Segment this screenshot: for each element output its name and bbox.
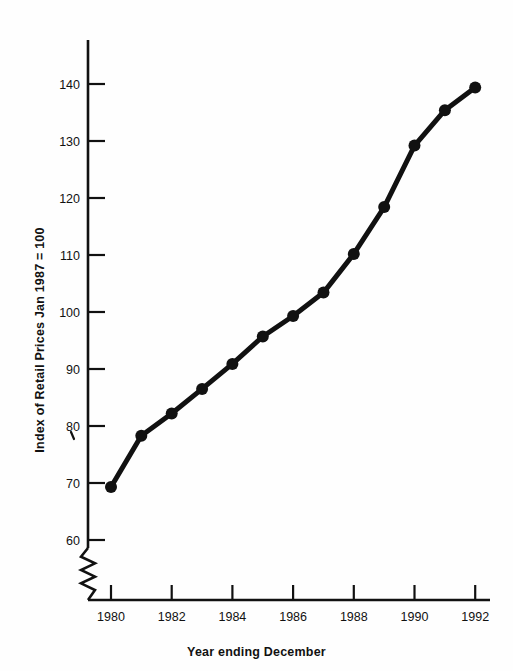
line-chart-plot: 6070809010011012013014019801982198419861… bbox=[0, 0, 513, 671]
x-tick-label: 1990 bbox=[401, 610, 429, 624]
data-point-marker bbox=[348, 248, 360, 260]
y-tick-label: 140 bbox=[59, 78, 80, 92]
y-tick-label: 130 bbox=[59, 135, 80, 149]
data-point-marker bbox=[409, 140, 421, 152]
data-point-marker bbox=[378, 201, 390, 213]
data-point-marker bbox=[287, 310, 299, 322]
x-tick-label: 1980 bbox=[97, 610, 125, 624]
data-point-markers bbox=[105, 81, 481, 493]
x-tick-label: 1988 bbox=[340, 610, 368, 624]
y-axis-title: Index of Retail Prices Jan 1987 = 100 bbox=[33, 180, 47, 500]
x-tick-label: 1982 bbox=[158, 610, 186, 624]
y-tick-label: 100 bbox=[59, 306, 80, 320]
data-series-line bbox=[111, 87, 475, 487]
data-point-marker bbox=[439, 104, 451, 116]
data-point-marker bbox=[257, 331, 269, 343]
data-point-marker bbox=[166, 408, 178, 420]
data-point-marker bbox=[135, 430, 147, 442]
data-point-marker bbox=[318, 287, 330, 299]
x-tick-label: 1986 bbox=[279, 610, 307, 624]
data-point-marker bbox=[226, 358, 238, 370]
chart-figure: 6070809010011012013014019801982198419861… bbox=[0, 0, 513, 671]
x-tick-label: 1984 bbox=[218, 610, 246, 624]
tick-marks bbox=[88, 84, 475, 600]
data-point-marker bbox=[105, 481, 117, 493]
y-tick-label: 60 bbox=[66, 534, 80, 548]
y-tick-label: 80 bbox=[66, 420, 80, 434]
x-axis-title: Year ending December bbox=[0, 645, 513, 659]
y-tick-label: 90 bbox=[66, 363, 80, 377]
y-tick-label: 110 bbox=[60, 249, 80, 263]
x-tick-label: 1992 bbox=[461, 610, 489, 624]
data-point-marker bbox=[196, 383, 208, 395]
y-tick-label: 120 bbox=[59, 192, 80, 206]
tick-labels: 6070809010011012013014019801982198419861… bbox=[59, 78, 489, 625]
data-point-marker bbox=[469, 81, 481, 93]
y-tick-label: 70 bbox=[66, 477, 80, 491]
